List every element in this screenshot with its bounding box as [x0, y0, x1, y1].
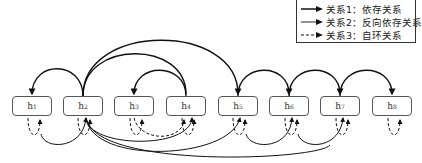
node-h7: h7: [320, 96, 360, 116]
dependency-arcs-top: [32, 40, 392, 96]
solid-arrow-icon: [301, 6, 323, 12]
node-h1: h1: [12, 96, 52, 116]
node-h6: h6: [269, 96, 309, 116]
dashed-arrow-icon: [301, 32, 323, 38]
node-h8: h8: [372, 96, 412, 116]
reverse-arcs-bottom: [41, 118, 343, 157]
legend: 关系1：依存关系 关系2：反向依存关系 关系3：自环关系: [296, 0, 416, 43]
node-h2: h2: [63, 96, 103, 116]
legend-label: 关系2：反向依存关系: [326, 15, 422, 29]
node-h5: h5: [218, 96, 258, 116]
legend-label: 关系1：依存关系: [326, 2, 402, 16]
legend-item-dependency: 关系1：依存关系: [301, 3, 402, 15]
legend-label: 关系3：自环关系: [326, 28, 402, 42]
node-h3: h3: [114, 96, 154, 116]
node-h4: h4: [166, 96, 206, 116]
thin-arrow-icon: [301, 19, 323, 25]
legend-item-reverse-dependency: 关系2：反向依存关系: [301, 16, 422, 28]
legend-item-self-loop: 关系3：自环关系: [301, 29, 402, 41]
